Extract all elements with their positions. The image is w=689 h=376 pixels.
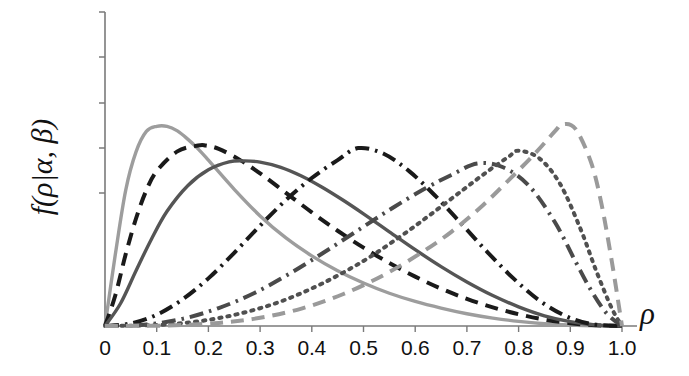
x-axis-tick-label: 0.9	[556, 336, 585, 360]
curve-5	[105, 163, 622, 326]
x-axis-tick-label: 1.0	[608, 336, 637, 360]
curve-4	[105, 148, 622, 326]
x-axis-tick-label: 0.1	[142, 336, 171, 360]
curve-3	[105, 161, 622, 326]
plot-area	[0, 0, 689, 376]
y-axis-ticks	[99, 12, 105, 193]
x-axis-ticks	[157, 326, 622, 332]
x-axis-tick-label: 0.4	[298, 336, 327, 360]
x-axis-tick-label: 0.8	[504, 336, 533, 360]
x-axis-tick-label: 0.5	[349, 336, 378, 360]
curve-7	[105, 124, 622, 326]
x-axis-tick-label: 0.3	[246, 336, 275, 360]
curve-6	[105, 151, 622, 326]
axis-lines	[105, 12, 637, 326]
x-axis-tick-label: 0	[99, 336, 110, 360]
x-axis-tick-label: 0.7	[453, 336, 482, 360]
x-axis-title: ρ	[640, 296, 655, 332]
x-axis-tick-label: 0.6	[401, 336, 430, 360]
curve-1	[105, 126, 622, 326]
beta-distribution-chart: 00.10.20.30.40.50.60.70.80.91.0 f(ρ|α, β…	[0, 0, 689, 376]
distribution-curves	[105, 124, 622, 326]
x-axis-tick-label: 0.2	[194, 336, 223, 360]
curve-2	[105, 145, 622, 326]
y-axis-title: f(ρ|α, β)	[25, 67, 59, 267]
